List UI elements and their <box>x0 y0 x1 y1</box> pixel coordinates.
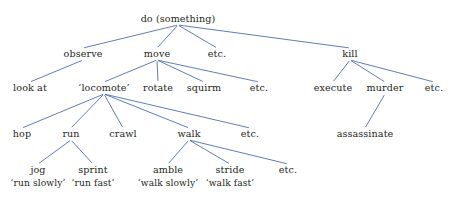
tree-node-run[interactable]: run <box>62 129 79 139</box>
tree-edge-walk-to-etc_walk <box>190 140 286 163</box>
tree-node-move[interactable]: move <box>144 49 170 59</box>
tree-node-etc_walk[interactable]: etc. <box>279 165 297 175</box>
tree-edge-locomote-to-run <box>72 95 103 127</box>
tree-node-root[interactable]: do (something) <box>141 14 216 24</box>
tree-node-rotate[interactable]: rotate <box>143 83 173 93</box>
tree-edge-move-to-locomote <box>105 61 155 82</box>
tree-node-crawl[interactable]: crawl <box>109 129 136 139</box>
tree-node-look_at[interactable]: look at <box>13 83 47 93</box>
tree-edge-locomote-to-walk <box>105 95 187 128</box>
tree-edge-locomote-to-crawl <box>105 95 123 126</box>
tree-node-assassinate[interactable]: assassinate <box>337 129 394 139</box>
tree-edge-root-to-move <box>158 26 177 47</box>
tree-node-jog[interactable]: jog <box>30 165 45 175</box>
tree-node-kill[interactable]: kill <box>342 49 357 59</box>
tree-node-execute[interactable]: execute <box>314 83 353 93</box>
tree-node-hop[interactable]: hop <box>13 129 31 139</box>
tree-edge-run-to-sprint <box>72 141 92 163</box>
tree-node-locomote[interactable]: ‘locomote’ <box>78 83 130 93</box>
tree-edge-root-to-kill <box>179 25 348 48</box>
tree-edge-move-to-squirm <box>158 61 202 82</box>
tree-node-observe[interactable]: observe <box>64 49 103 59</box>
tree-node-sprint[interactable]: sprint <box>78 165 107 175</box>
tree-edge-observe-to-look_at <box>31 61 81 82</box>
tree-edge-murder-to-assassinate <box>366 95 384 126</box>
tree-node-amble[interactable]: amble <box>153 165 183 175</box>
tree-diagram: do (something)observemoveetc.killlook at… <box>0 0 452 200</box>
tree-edge-root-to-observe <box>84 25 176 47</box>
tree-gloss-amble: ‘walk slowly’ <box>138 179 198 189</box>
tree-edge-run-to-jog <box>39 141 70 163</box>
tree-edge-walk-to-stride <box>190 141 228 163</box>
tree-node-squirm[interactable]: squirm <box>187 83 222 93</box>
tree-edge-walk-to-amble <box>169 141 188 163</box>
tree-edge-move-to-etc_move <box>158 60 257 81</box>
tree-edge-kill-to-execute <box>334 61 349 81</box>
tree-node-etc_loco[interactable]: etc. <box>241 129 259 139</box>
tree-node-walk[interactable]: walk <box>177 129 200 139</box>
tree-edge-kill-to-etc_kill <box>351 60 432 81</box>
tree-node-stride[interactable]: stride <box>216 165 245 175</box>
tree-edge-root-to-etc_l1 <box>179 26 215 47</box>
tree-node-murder[interactable]: murder <box>367 83 404 93</box>
tree-edge-locomote-to-etc_loco <box>105 94 248 127</box>
tree-node-etc_l1[interactable]: etc. <box>208 49 226 59</box>
tree-edge-move-to-rotate <box>157 62 158 81</box>
tree-gloss-jog: ‘run slowly’ <box>11 179 66 189</box>
tree-node-etc_move[interactable]: etc. <box>250 83 268 93</box>
tree-gloss-sprint: ‘run fast’ <box>72 179 115 189</box>
tree-node-etc_kill[interactable]: etc. <box>425 83 443 93</box>
tree-edge-locomote-to-hop <box>23 95 102 128</box>
tree-edge-kill-to-murder <box>351 61 383 81</box>
tree-gloss-stride: ‘walk fast’ <box>206 179 255 189</box>
